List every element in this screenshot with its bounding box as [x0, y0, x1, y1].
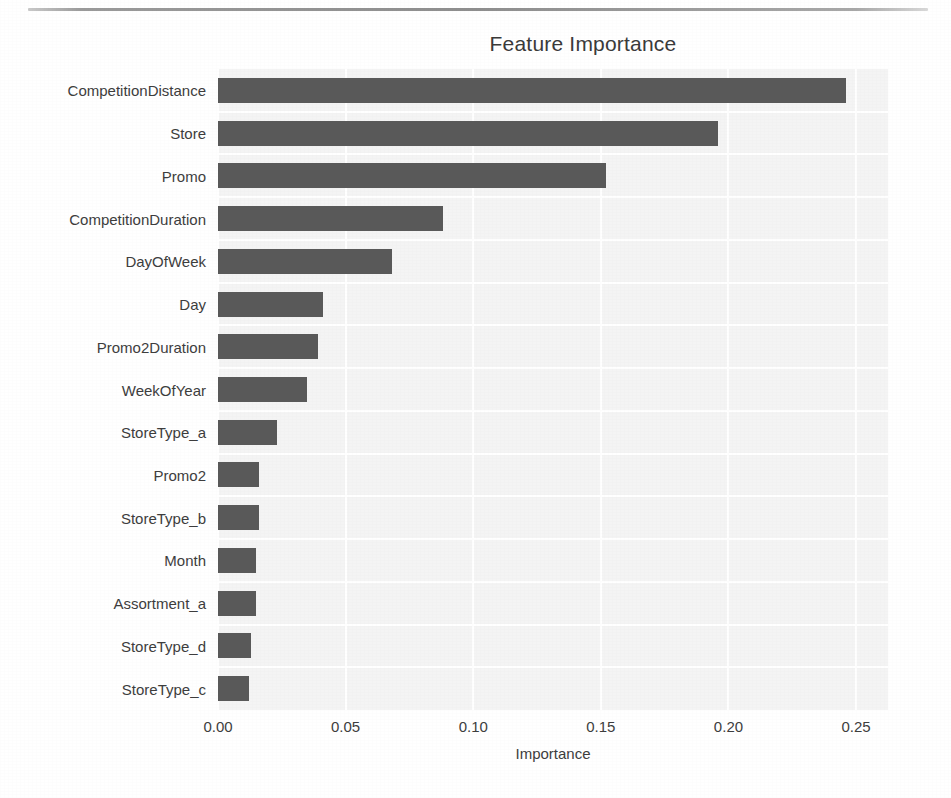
bar-row: [218, 121, 888, 146]
bar: [218, 420, 277, 445]
bar: [218, 292, 323, 317]
y-axis-tick-label: Assortment_a: [0, 595, 206, 612]
y-axis-tick-label: StoreType_b: [0, 509, 206, 526]
x-axis-tick-labels: 0.000.050.100.150.200.25: [0, 718, 951, 740]
bar: [218, 591, 256, 616]
bar: [218, 206, 443, 231]
bar-row: [218, 548, 888, 573]
bar: [218, 676, 249, 701]
y-axis-tick-label: Promo: [0, 167, 206, 184]
y-axis-tick-label: StoreType_a: [0, 424, 206, 441]
bar-row: [218, 334, 888, 359]
bar: [218, 505, 259, 530]
bar-row: [218, 206, 888, 231]
bar-row: [218, 249, 888, 274]
y-axis-tick-label: WeekOfYear: [0, 381, 206, 398]
y-axis-tick-label: Promo2Duration: [0, 338, 206, 355]
bar-series: [218, 69, 888, 710]
bar-row: [218, 292, 888, 317]
bar-row: [218, 462, 888, 487]
bar: [218, 249, 392, 274]
y-axis-tick-label: DayOfWeek: [0, 253, 206, 270]
x-axis-tick-label: 0.20: [714, 718, 743, 735]
feature-importance-figure: Feature Importance CompetitionDistanceSt…: [0, 0, 951, 798]
bar-row: [218, 163, 888, 188]
bar: [218, 78, 846, 103]
bar-row: [218, 676, 888, 701]
plot-area: [218, 69, 888, 710]
y-axis-tick-label: CompetitionDuration: [0, 210, 206, 227]
x-axis-tick-label: 0.00: [203, 718, 232, 735]
bar: [218, 377, 307, 402]
page-top-rule: [28, 8, 928, 11]
chart-title: Feature Importance: [0, 32, 951, 56]
bar-row: [218, 78, 888, 103]
bar: [218, 462, 259, 487]
bar: [218, 633, 251, 658]
y-axis-tick-label: StoreType_d: [0, 637, 206, 654]
x-axis-tick-label: 0.10: [459, 718, 488, 735]
y-axis-tick-label: Store: [0, 125, 206, 142]
bar-row: [218, 377, 888, 402]
y-axis-tick-label: Day: [0, 296, 206, 313]
bar: [218, 121, 718, 146]
y-axis-tick-label: StoreType_c: [0, 680, 206, 697]
bar-row: [218, 420, 888, 445]
y-axis-tick-label: Promo2: [0, 466, 206, 483]
x-axis-tick-label: 0.25: [841, 718, 870, 735]
x-axis-tick-label: 0.05: [331, 718, 360, 735]
bar-row: [218, 505, 888, 530]
bar: [218, 334, 318, 359]
bar-row: [218, 591, 888, 616]
x-axis-tick-label: 0.15: [586, 718, 615, 735]
y-axis-tick-label: CompetitionDistance: [0, 82, 206, 99]
bar: [218, 163, 606, 188]
bar-row: [218, 633, 888, 658]
bar: [218, 548, 256, 573]
y-axis-tick-labels: CompetitionDistanceStorePromoCompetition…: [0, 69, 206, 710]
y-axis-tick-label: Month: [0, 552, 206, 569]
x-axis-title: Importance: [218, 745, 888, 762]
